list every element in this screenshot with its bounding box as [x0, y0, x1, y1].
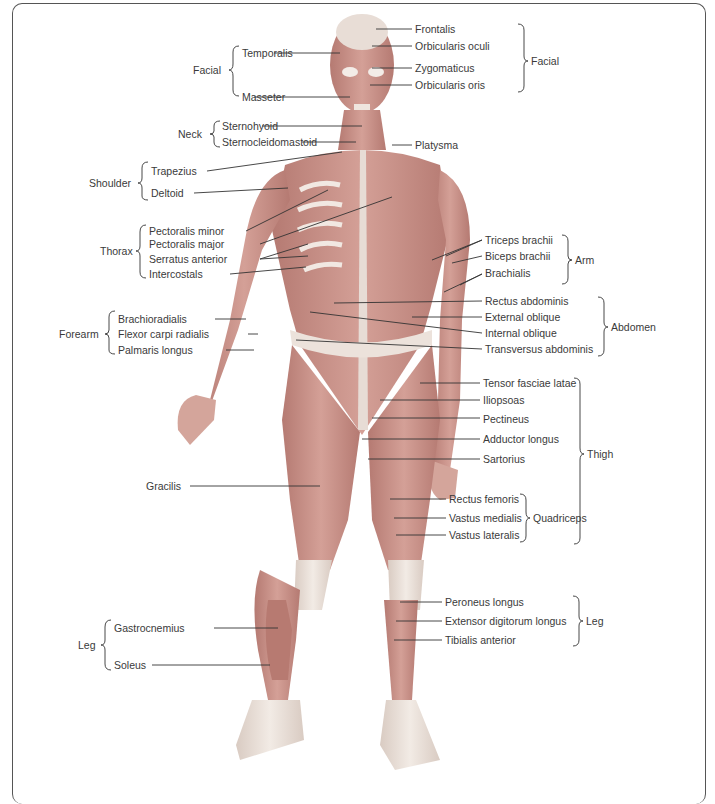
label-pectineus: Pectineus [483, 413, 529, 425]
label-brachioradialis: Brachioradialis [118, 313, 187, 325]
label-intercostals: Intercostals [149, 268, 203, 280]
label-vastus-lateralis: Vastus lateralis [449, 529, 519, 541]
group-label-forearm: Forearm [59, 328, 99, 340]
group-label-arm: Arm [575, 254, 594, 266]
label-sartorius: Sartorius [483, 453, 525, 465]
group-label-facial-right: Facial [531, 55, 559, 67]
label-masseter: Masseter [242, 91, 285, 103]
label-sternocleidomastoid: Sternocleidomastoid [222, 136, 317, 148]
label-brachialis: Brachialis [485, 267, 531, 279]
label-peroneus-longus: Peroneus longus [445, 596, 524, 608]
label-trapezius: Trapezius [151, 165, 197, 177]
label-pectoralis-minor: Pectoralis minor [149, 225, 224, 237]
label-external-oblique: External oblique [485, 311, 560, 323]
group-label-quadriceps: Quadriceps [533, 512, 587, 524]
label-orbicularis-oris: Orbicularis oris [415, 79, 485, 91]
label-rectus-femoris: Rectus femoris [449, 493, 519, 505]
label-palmaris-longus: Palmaris longus [118, 344, 193, 356]
label-transversus-abdominis: Transversus abdominis [485, 343, 593, 355]
group-label-thigh: Thigh [587, 448, 613, 460]
label-tibialis-anterior: Tibialis anterior [445, 634, 516, 646]
label-biceps-brachii: Biceps brachii [485, 250, 550, 262]
label-deltoid: Deltoid [151, 187, 184, 199]
label-flexor-carpi-radialis: Flexor carpi radialis [118, 328, 209, 340]
label-tensor-fasciae-latae: Tensor fasciae latae [483, 377, 576, 389]
label-zygomaticus: Zygomaticus [415, 62, 475, 74]
label-gastrocnemius: Gastrocnemius [114, 622, 185, 634]
label-frontalis: Frontalis [415, 23, 455, 35]
label-temporalis: Temporalis [242, 47, 293, 59]
label-rectus-abdominis: Rectus abdominis [485, 295, 568, 307]
label-triceps-brachii: Triceps brachii [485, 234, 553, 246]
group-label-facial-left: Facial [193, 64, 221, 76]
group-label-thorax: Thorax [100, 245, 133, 257]
group-label-leg-right: Leg [586, 615, 604, 627]
label-orbicularis-oculi: Orbicularis oculi [415, 40, 490, 52]
group-label-abdomen: Abdomen [611, 321, 656, 333]
label-iliopsoas: Iliopsoas [483, 394, 524, 406]
label-platysma: Platysma [415, 139, 458, 151]
group-label-shoulder: Shoulder [89, 177, 131, 189]
group-label-leg-left: Leg [78, 639, 96, 651]
label-pectoralis-major: Pectoralis major [149, 238, 224, 250]
label-extensor-digitorum-longus: Extensor digitorum longus [445, 615, 566, 627]
label-soleus: Soleus [114, 659, 146, 671]
label-internal-oblique: Internal oblique [485, 327, 557, 339]
label-serratus-anterior: Serratus anterior [149, 253, 227, 265]
group-label-neck: Neck [178, 128, 202, 140]
label-sternohyoid: Sternohyoid [222, 120, 278, 132]
label-gracilis: Gracilis [146, 480, 181, 492]
label-adductor-longus: Adductor longus [483, 433, 559, 445]
label-vastus-medialis: Vastus medialis [449, 512, 522, 524]
